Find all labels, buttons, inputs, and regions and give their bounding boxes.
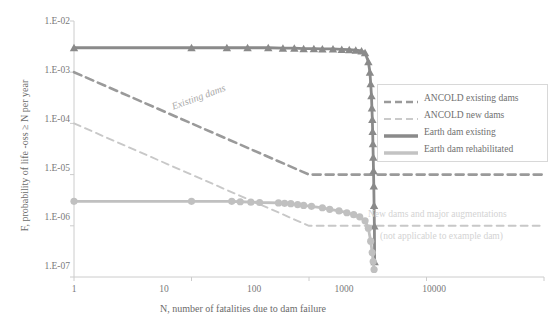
data-marker-triangle bbox=[364, 58, 372, 66]
data-marker-triangle bbox=[370, 182, 378, 190]
data-marker-circle bbox=[369, 249, 376, 256]
data-marker-circle bbox=[300, 202, 307, 209]
data-marker-circle bbox=[326, 206, 333, 213]
legend-label: ANCOLD existing dams bbox=[424, 93, 518, 103]
plot-area bbox=[0, 0, 553, 326]
legend-item-earth-rehabilitated[interactable]: Earth dam rehabilitated bbox=[383, 140, 542, 157]
data-marker-triangle bbox=[366, 80, 374, 88]
data-marker-circle bbox=[281, 200, 288, 207]
annotation-new-dams: New dams and major augmentations bbox=[368, 209, 507, 219]
data-marker-circle bbox=[275, 199, 282, 206]
data-marker-circle bbox=[343, 209, 350, 216]
legend-item-earth-existing[interactable]: Earth dam existing bbox=[383, 123, 542, 140]
data-marker-circle bbox=[335, 207, 342, 214]
figure-chart: F, probability of life -oss ≥ N per year… bbox=[0, 0, 553, 326]
data-marker-circle bbox=[319, 204, 326, 211]
legend-swatch-solid-icon bbox=[383, 127, 419, 137]
legend-label: Earth dam rehabilitated bbox=[424, 144, 513, 154]
data-marker-triangle bbox=[368, 104, 376, 112]
data-marker-triangle bbox=[369, 140, 377, 148]
data-marker-circle bbox=[370, 266, 377, 273]
data-marker-circle bbox=[287, 200, 294, 207]
legend-swatch-dashed-icon bbox=[383, 110, 419, 120]
series-line bbox=[74, 48, 375, 262]
data-marker-circle bbox=[70, 198, 77, 205]
chart-legend: ANCOLD existing dams ANCOLD new dams Ear… bbox=[377, 84, 548, 162]
data-marker-circle bbox=[308, 203, 315, 210]
data-marker-triangle bbox=[367, 92, 375, 100]
legend-label: Earth dam existing bbox=[424, 127, 496, 137]
legend-swatch-solid-icon bbox=[383, 144, 419, 154]
legend-swatch-dashed-icon bbox=[383, 93, 419, 103]
data-marker-circle bbox=[237, 198, 244, 205]
data-marker-circle bbox=[365, 225, 372, 232]
data-marker-triangle bbox=[368, 115, 376, 123]
data-marker-triangle bbox=[368, 127, 376, 135]
data-marker-circle bbox=[367, 238, 374, 245]
legend-item-ancold-existing[interactable]: ANCOLD existing dams bbox=[383, 89, 542, 106]
data-marker-circle bbox=[228, 198, 235, 205]
data-marker-circle bbox=[370, 258, 377, 265]
data-marker-circle bbox=[188, 198, 195, 205]
data-marker-circle bbox=[256, 199, 263, 206]
annotation-not-applicable: (not applicable to example dam) bbox=[380, 231, 503, 241]
legend-label: ANCOLD new dams bbox=[424, 110, 504, 120]
data-marker-triangle bbox=[369, 167, 377, 175]
data-marker-triangle bbox=[370, 202, 378, 210]
data-marker-triangle bbox=[366, 68, 374, 76]
legend-item-ancold-new[interactable]: ANCOLD new dams bbox=[383, 106, 542, 123]
data-marker-circle bbox=[247, 199, 254, 206]
